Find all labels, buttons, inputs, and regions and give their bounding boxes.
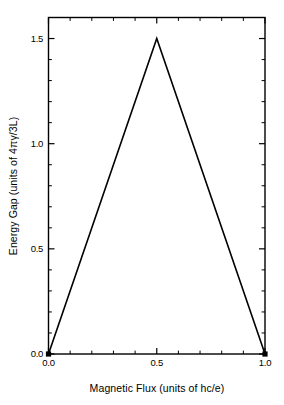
data-point-marker [46, 351, 51, 356]
figure-container: 0.00.51.0 0.00.51.01.5 Magnetic Flux (un… [0, 0, 284, 405]
energy-gap-chart: 0.00.51.0 0.00.51.01.5 Magnetic Flux (un… [0, 0, 284, 405]
y-axis-title: Energy Gap (units of 4πγ/3L) [7, 117, 19, 255]
y-tick-label: 1.0 [31, 138, 43, 149]
x-tick-label: 1.0 [259, 357, 271, 368]
y-tick-label: 1.5 [31, 33, 43, 44]
x-tick-label: 0.0 [42, 357, 54, 368]
chart-background [0, 0, 284, 405]
x-tick-label: 0.5 [151, 357, 163, 368]
data-point-marker [262, 351, 267, 356]
y-tick-label: 0.5 [31, 243, 43, 254]
x-axis-title: Magnetic Flux (units of hc/e) [90, 382, 225, 394]
y-tick-label: 0.0 [31, 348, 43, 359]
